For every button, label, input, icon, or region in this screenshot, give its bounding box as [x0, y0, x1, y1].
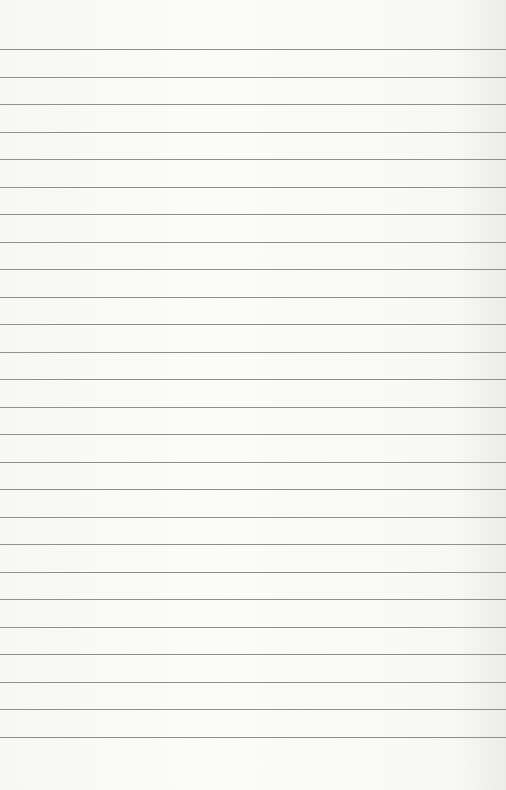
ruled-line	[0, 49, 506, 50]
ruled-line	[0, 214, 506, 215]
ruled-line	[0, 269, 506, 270]
ruled-line	[0, 462, 506, 463]
ruled-line	[0, 242, 506, 243]
ruled-line	[0, 709, 506, 710]
ruled-line	[0, 187, 506, 188]
ruled-line	[0, 627, 506, 628]
ruled-line	[0, 517, 506, 518]
ruled-line	[0, 489, 506, 490]
ruled-line	[0, 379, 506, 380]
ruled-line	[0, 352, 506, 353]
ruled-line	[0, 599, 506, 600]
ruled-line	[0, 132, 506, 133]
ruled-line	[0, 572, 506, 573]
ruled-line	[0, 434, 506, 435]
ruled-line	[0, 682, 506, 683]
ruled-line	[0, 297, 506, 298]
ruled-line	[0, 407, 506, 408]
ruled-line	[0, 737, 506, 738]
lined-paper	[0, 0, 506, 790]
ruled-line	[0, 324, 506, 325]
ruled-line	[0, 77, 506, 78]
ruled-line	[0, 159, 506, 160]
ruled-line	[0, 654, 506, 655]
ruled-line	[0, 544, 506, 545]
ruled-line	[0, 104, 506, 105]
